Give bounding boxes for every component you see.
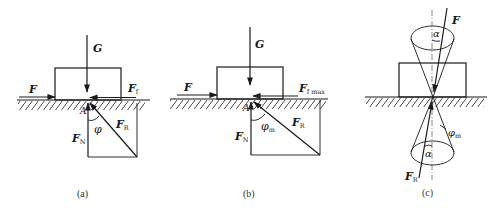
resultant-force-arrow <box>419 102 432 178</box>
gravity-label: G <box>93 42 102 55</box>
panel-a: G F Ff FN FR φ A (a) <box>17 35 150 200</box>
point-a-label: A <box>242 103 250 113</box>
alpha-bottom-label: α <box>425 148 432 159</box>
gravity-label: G <box>255 38 264 51</box>
upper-cone-right <box>433 39 454 97</box>
angle-label: φ <box>94 123 102 136</box>
resultant-force-label: FR <box>404 170 419 184</box>
friction-label: Ff <box>127 82 139 96</box>
applied-force-label: F <box>28 83 38 96</box>
block <box>399 63 466 97</box>
normal-force-label: FN <box>234 130 249 144</box>
panel-c: F FR α α φm (c) <box>365 8 487 199</box>
alpha-arc-bottom <box>425 145 432 146</box>
angle-label: φm <box>261 120 275 134</box>
panel-b: G F Ff max FN FR φm A (b) <box>170 27 328 200</box>
normal-force-label: FN <box>71 132 86 146</box>
point-a-label: A <box>79 106 87 116</box>
resultant-force-label: FR <box>291 116 306 130</box>
max-friction-label: Ff max <box>298 82 325 96</box>
phi-pointer <box>440 125 446 129</box>
caption-b: (b) <box>243 188 255 200</box>
alpha-arc-top <box>432 40 440 41</box>
angle-label: φm <box>448 127 461 140</box>
angle-arc <box>88 116 99 121</box>
lower-cone-ellipse <box>411 141 454 165</box>
force-label: F <box>451 14 461 27</box>
applied-force-label: F <box>183 81 193 94</box>
ground-hatch <box>366 98 484 107</box>
caption-c: (c) <box>422 187 433 199</box>
alpha-top-label: α <box>433 28 440 39</box>
upper-cone-left <box>411 39 433 97</box>
friction-diagram: G F Ff FN FR φ A (a) G F Ff max FN <box>0 0 501 211</box>
resultant-force-label: FR <box>115 118 130 132</box>
caption-a: (a) <box>77 188 88 200</box>
block <box>55 68 121 100</box>
